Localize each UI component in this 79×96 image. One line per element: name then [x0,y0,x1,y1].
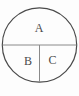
diagram-canvas: A B C [0,0,79,96]
region-label-b: B [24,54,32,68]
region-label-c: C [48,53,56,67]
partitioned-circle-diagram: A B C [0,0,79,96]
region-label-a: A [35,21,44,35]
